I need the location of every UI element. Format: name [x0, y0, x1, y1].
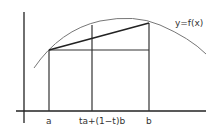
x-label-b: b [146, 116, 152, 126]
x-label-mid: ta+(1−t)b [79, 116, 125, 126]
curve-label: y=f(x) [175, 18, 203, 28]
concavity-diagram: y=f(x) a ta+(1−t)b b [0, 0, 218, 133]
diagram-svg: y=f(x) a ta+(1−t)b b [0, 0, 218, 133]
x-label-a: a [46, 116, 52, 126]
